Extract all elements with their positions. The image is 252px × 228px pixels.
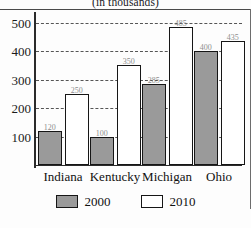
bar-value-label: 100 [96, 130, 108, 138]
empty-white-swatch [141, 195, 163, 208]
bar-value-label: 435 [227, 34, 239, 42]
legend-item-2010: 2010 [141, 195, 196, 208]
bar-kentucky-2010: 350 [117, 65, 141, 165]
bar-value-label: 400 [200, 44, 212, 52]
bar-michigan-2000: 285 [142, 84, 166, 165]
bar-value-label: 250 [71, 87, 83, 95]
page-frame-top-border [0, 9, 251, 10]
y-axis-line [34, 12, 36, 168]
y-axis-tick-label: 500 [12, 17, 32, 30]
category-label-ohio: Ohio [184, 170, 252, 183]
bar-group: 285485 [142, 14, 193, 165]
x-axis-line [34, 165, 242, 166]
chart-legend: 20002010 [0, 195, 251, 208]
bar-ohio-2000: 400 [194, 51, 218, 165]
bar-group: 120250 [38, 14, 89, 165]
bar-ohio-2010: 435 [221, 41, 245, 165]
filled-gray-swatch [56, 195, 78, 208]
y-axis-tick-label: 100 [12, 131, 32, 144]
bar-michigan-2010: 485 [169, 27, 193, 165]
bar-indiana-2000: 120 [38, 131, 62, 165]
legend-item-2000: 2000 [56, 195, 111, 208]
bar-group: 400435 [194, 14, 245, 165]
bar-value-label: 285 [148, 77, 160, 85]
plot-area: 100200300400500 120250100350285485400435 [34, 14, 242, 166]
y-axis-tick-label: 400 [12, 45, 32, 58]
bar-group: 100350 [90, 14, 141, 165]
chart-subtitle: (in thousands) [0, 0, 251, 8]
y-axis-tick-label: 300 [12, 74, 32, 87]
chart-page: (in thousands) 100200300400500 120250100… [0, 0, 251, 228]
y-axis-tick-label: 200 [12, 102, 32, 115]
bar-value-label: 350 [123, 58, 135, 66]
bar-kentucky-2000: 100 [90, 137, 114, 165]
legend-label: 2010 [170, 195, 196, 208]
bar-indiana-2010: 250 [65, 94, 89, 165]
bar-value-label: 120 [44, 124, 56, 132]
legend-label: 2000 [85, 195, 111, 208]
bar-value-label: 485 [175, 20, 187, 28]
